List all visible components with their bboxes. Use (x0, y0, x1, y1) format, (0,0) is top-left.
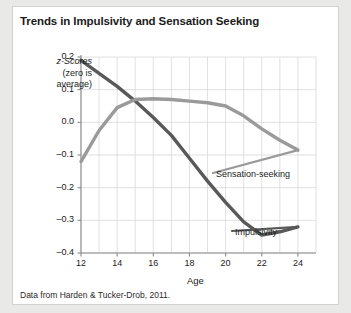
y-axis-tick-label: 0.1 (48, 84, 74, 94)
y-axis-tick-label: –0.3 (48, 214, 74, 224)
x-axis-tick-label: 22 (252, 258, 272, 268)
y-axis-tick-label: –0.1 (48, 149, 74, 159)
x-axis-tick-label: 14 (107, 258, 127, 268)
source-note: Data from Harden & Tucker-Drob, 2011. (20, 290, 170, 300)
y-axis-title-line2: (zero is (18, 68, 92, 80)
x-axis-title: Age (187, 275, 204, 286)
x-axis-tick-label: 20 (216, 258, 236, 268)
x-axis-tick-label: 16 (143, 258, 163, 268)
figure-card: Trends in Impulsivity and Sensation Seek… (12, 6, 339, 305)
series-label-impulsivity: Impulsivity (235, 227, 277, 237)
x-axis-tick-label: 24 (288, 258, 308, 268)
x-axis-tick-label: 18 (179, 258, 199, 268)
x-axis-tick-label: 12 (71, 258, 91, 268)
series-label-sensation-seeking: Sensation-seeking (216, 169, 290, 179)
y-axis-tick-label: 0.2 (48, 51, 74, 61)
y-axis-tick-label: –0.4 (48, 247, 74, 257)
y-axis-tick-label: –0.2 (48, 182, 74, 192)
y-axis-tick-label: 0.0 (48, 116, 74, 126)
